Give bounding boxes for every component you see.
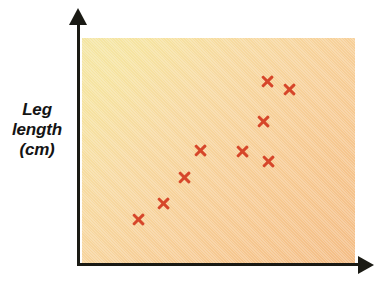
scatter-plot-figure: Leg length (cm)	[0, 0, 375, 282]
y-axis-arrowhead-icon	[69, 8, 87, 25]
data-point-marker	[132, 212, 147, 227]
data-point-marker	[157, 196, 172, 211]
data-point-marker	[283, 82, 298, 97]
data-point-marker	[178, 170, 193, 185]
plot-area	[82, 38, 355, 264]
y-axis-label-line-2: length	[0, 120, 74, 140]
data-point-marker	[262, 154, 277, 169]
y-axis-label-line-3: (cm)	[0, 140, 74, 160]
data-point-marker	[257, 114, 272, 129]
data-point-marker	[194, 143, 209, 158]
data-point-marker	[261, 74, 276, 89]
y-axis-line	[77, 22, 80, 266]
plot-background-texture	[82, 38, 355, 264]
y-axis-label-line-1: Leg	[0, 100, 74, 120]
data-point-marker	[236, 144, 251, 159]
x-axis-arrowhead-icon	[358, 256, 374, 274]
y-axis-label: Leg length (cm)	[0, 100, 74, 160]
x-axis-line	[78, 263, 363, 266]
